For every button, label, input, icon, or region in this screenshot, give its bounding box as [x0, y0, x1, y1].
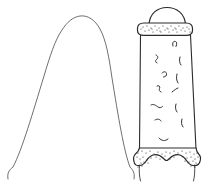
stipple-dot: [148, 29, 149, 30]
stipple-dot: [185, 152, 186, 153]
stipple-dot: [170, 25, 171, 26]
stipple-dot: [157, 151, 158, 152]
stipple-dot: [189, 31, 190, 32]
stipple-dot: [184, 160, 185, 161]
stipple-dot: [145, 152, 146, 153]
stipple-dot: [146, 159, 147, 160]
stipple-dot: [174, 27, 175, 28]
stipple-dot: [182, 27, 183, 28]
stipple-dot: [152, 31, 153, 32]
stipple-dot: [166, 27, 167, 28]
stipple-dot: [143, 161, 144, 162]
stipple-dot: [164, 155, 165, 156]
stipple-dot: [160, 31, 161, 32]
stipple-dot: [178, 25, 179, 26]
artifact-line-drawing: [0, 0, 211, 190]
stipple-dot: [180, 29, 181, 30]
stipple-dot: [197, 156, 198, 157]
stipple-dot: [195, 162, 196, 163]
stipple-dot: [161, 153, 162, 154]
stipple-dot: [140, 162, 141, 163]
stipple-dot: [176, 31, 177, 32]
stipple-dot: [186, 157, 187, 158]
stipple-dot: [142, 26, 143, 27]
stipple-dot: [173, 156, 174, 157]
stipple-dot: [159, 30, 160, 31]
stipple-dot: [196, 152, 197, 153]
stipple-dot: [154, 25, 155, 26]
stipple-dot: [189, 151, 190, 152]
right-detail-figure: [134, 8, 201, 182]
stipple-dot: [169, 158, 170, 159]
stipple-dot: [165, 151, 166, 152]
stipple-dot: [194, 158, 195, 159]
stipple-dot: [146, 25, 147, 26]
stipple-dot: [194, 166, 195, 167]
stipple-dot: [188, 28, 189, 29]
stipple-dot: [149, 150, 150, 151]
stipple-dot: [159, 158, 160, 159]
stipple-dot: [169, 152, 170, 153]
stipple-dot: [140, 28, 141, 29]
stipple-dot: [147, 162, 148, 163]
stipple-dot: [172, 29, 173, 30]
illustration-canvas: [0, 0, 211, 190]
stipple-dot: [156, 29, 157, 30]
stipple-dot: [167, 28, 168, 29]
stipple-dot: [150, 157, 151, 158]
stipple-dot: [177, 152, 178, 153]
stipple-dot: [150, 27, 151, 28]
stipple-dot: [162, 25, 163, 26]
stipple-dot: [190, 156, 191, 157]
stipple-dot: [144, 30, 145, 31]
stipple-dot: [192, 160, 193, 161]
stipple-dot: [186, 26, 187, 27]
shaft-body: [140, 35, 197, 149]
stipple-dot: [181, 150, 182, 151]
stipple-dot: [190, 165, 191, 166]
stipple-dot: [136, 156, 137, 157]
stipple-dot: [182, 156, 183, 157]
collar-band: [138, 23, 193, 35]
stipple-dot: [158, 27, 159, 28]
stipple-dot: [188, 161, 189, 162]
stipple-dot: [164, 29, 165, 30]
stipple-dot: [173, 150, 174, 151]
stipple-dot: [137, 152, 138, 153]
stipple-dot: [139, 158, 140, 159]
stipple-dot: [175, 28, 176, 29]
stipple-dot: [141, 165, 142, 166]
stipple-dot: [193, 153, 194, 154]
stipple-dot: [184, 30, 185, 31]
stipple-dot: [141, 150, 142, 151]
stipple-dot: [142, 156, 143, 157]
stipple-dot: [151, 28, 152, 29]
stipple-dot: [153, 153, 154, 154]
stipple-dot: [168, 31, 169, 32]
stipple-dot: [137, 166, 138, 167]
stipple-dot: [155, 156, 156, 157]
